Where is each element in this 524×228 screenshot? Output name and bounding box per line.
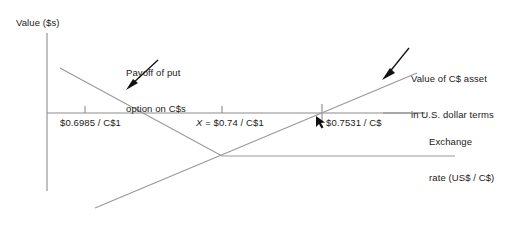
- put-payoff-polyline: [60, 68, 455, 156]
- annotation-put-option: Payoff of put option on C$s: [126, 43, 186, 139]
- x-axis-label-line1: Exchange: [429, 136, 494, 148]
- figure-container: Value ($s) Payoff of put option on C$s V…: [0, 0, 524, 228]
- x-tick-label-strike: X = $0.74 / C$1: [196, 117, 264, 129]
- strike-value: = $0.74 / C$1: [202, 117, 263, 128]
- x-axis-label: Exchange rate (US$ / C$): [429, 112, 494, 208]
- arrow-asset-annotation: [382, 48, 409, 80]
- arrow-asset-head: [382, 68, 395, 80]
- x-tick-label-right: $0.7531 / C$: [326, 117, 382, 129]
- cursor-arrow-icon: [316, 116, 325, 129]
- x-axis-label-line2: rate (US$ / C$): [429, 172, 494, 184]
- axes-group: [47, 33, 425, 191]
- y-axis-label: Value ($s): [16, 17, 60, 29]
- annotation-put-line2: option on C$s: [126, 103, 186, 115]
- x-tick-label-left: $0.6985 / C$1: [60, 117, 121, 129]
- series-put-option-payoff: [60, 68, 455, 156]
- annotation-asset-line1: Value of C$ asset: [411, 73, 494, 85]
- annotation-put-line1: Payoff of put: [126, 67, 186, 79]
